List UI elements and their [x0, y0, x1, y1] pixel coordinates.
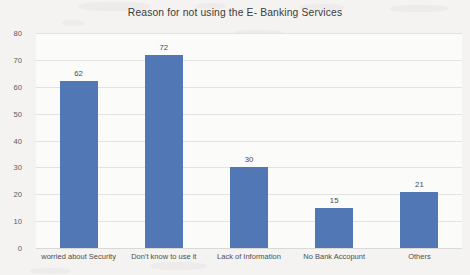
y-axis-tick-label: 50 — [0, 110, 22, 119]
bar-chart-figure: Reason for not using the E- Banking Serv… — [0, 0, 470, 275]
bar-value-label: 21 — [415, 180, 424, 189]
bar-slot: 30 — [206, 33, 291, 248]
gridline — [36, 248, 462, 249]
y-axis-tick-label: 70 — [0, 56, 22, 65]
scan-artifact — [62, 20, 84, 26]
y-axis-tick-label: 30 — [0, 163, 22, 172]
y-axis-tick-label: 80 — [0, 29, 22, 38]
plot-area: 01020304050607080 6272301521 — [36, 33, 462, 248]
bar[interactable] — [60, 81, 98, 248]
bar-slot: 62 — [36, 33, 121, 248]
bar-value-label: 30 — [245, 155, 254, 164]
chart-title: Reason for not using the E- Banking Serv… — [0, 7, 470, 18]
x-axis-tick-label: Lack of Information — [217, 252, 281, 261]
bar-value-label: 72 — [159, 43, 168, 52]
bar-slot: 15 — [292, 33, 377, 248]
bar[interactable] — [400, 192, 438, 248]
y-axis-tick-label: 60 — [0, 83, 22, 92]
x-axis-tick-label: worried about Security — [41, 252, 116, 261]
x-axis-tick-label: Others — [408, 252, 431, 261]
x-axis-tick-label: Don't know to use it — [131, 252, 196, 261]
x-axis-tick-label: No Bank Accopunt — [303, 252, 365, 261]
bar[interactable] — [315, 208, 353, 248]
y-axis-tick-label: 0 — [0, 244, 22, 253]
scan-artifact — [30, 268, 70, 274]
bar-value-label: 62 — [74, 69, 83, 78]
bar[interactable] — [145, 55, 183, 249]
bar[interactable] — [230, 167, 268, 248]
y-axis-tick-label: 20 — [0, 190, 22, 199]
bar-slot: 72 — [121, 33, 206, 248]
bar-slot: 21 — [377, 33, 462, 248]
bar-value-label: 15 — [330, 196, 339, 205]
y-axis-tick-label: 10 — [0, 217, 22, 226]
scan-artifact — [150, 262, 206, 270]
y-axis-tick-label: 40 — [0, 137, 22, 146]
bars-group: 6272301521 — [36, 33, 462, 248]
